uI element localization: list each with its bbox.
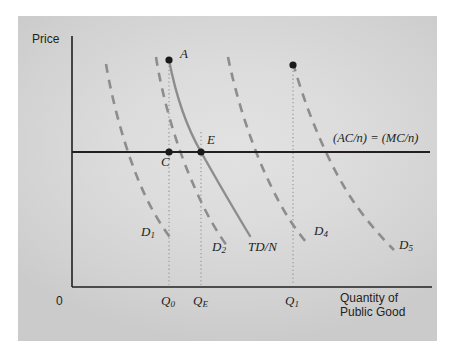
curve-d4 (228, 57, 306, 242)
curve-label-d1-base: D (141, 224, 150, 239)
x-tick-q1-sub: 1 (294, 299, 299, 309)
x-axis-label-line2: Public Good (340, 306, 405, 319)
curve-label-d4: D4 (314, 224, 328, 239)
x-tick-qe: QE (193, 294, 208, 309)
origin-label: 0 (56, 295, 63, 308)
x-tick-q1: Q1 (285, 294, 299, 309)
point-label-c: C (161, 155, 170, 170)
curve-label-d2: D2 (212, 240, 226, 255)
cost-line-label: (AC/n) = (MC/n) (333, 131, 419, 145)
x-tick-qe-base: Q (193, 293, 202, 308)
x-axis-label-line1: Quantity of (340, 292, 398, 305)
curve-label-d1: D1 (141, 225, 155, 240)
x-tick-qe-sub: E (202, 299, 208, 309)
x-tick-q0-base: Q (161, 293, 170, 308)
x-tick-q0: Q0 (161, 294, 175, 309)
curve-label-d5-sub: 5 (408, 243, 413, 253)
point-a-marker (165, 56, 172, 63)
curve-td-n (169, 60, 250, 236)
point-q1-top-marker (289, 61, 296, 68)
x-tick-q0-sub: 0 (170, 299, 175, 309)
curve-d5 (293, 63, 394, 250)
curve-label-d2-sub: 2 (221, 245, 226, 255)
point-label-a: A (180, 47, 188, 62)
curve-label-d4-sub: 4 (323, 229, 328, 239)
point-e-marker (197, 148, 204, 155)
economics-diagram: Price A C E (AC/n) = (MC/n) D1 D2 TD/N D… (0, 0, 455, 357)
curve-label-d5-base: D (399, 237, 408, 252)
curve-label-d4-base: D (314, 223, 323, 238)
y-axis-label: Price (32, 33, 59, 46)
curve-label-td-n: TD/N (248, 240, 277, 255)
curve-label-d5: D5 (399, 238, 413, 253)
x-tick-q1-base: Q (285, 293, 294, 308)
point-label-e: E (207, 133, 215, 148)
curve-label-d2-base: D (212, 239, 221, 254)
curve-label-d1-sub: 1 (150, 230, 155, 240)
